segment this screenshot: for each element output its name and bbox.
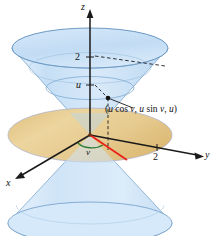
- surface-point-marker: [106, 96, 111, 101]
- x-axis-label: x: [6, 178, 10, 188]
- y-tick-label-2: 2: [153, 152, 158, 162]
- x-axis-arrowhead: [15, 172, 25, 179]
- point-label-sin: sin: [144, 104, 160, 114]
- y-axis-label: y: [205, 150, 209, 160]
- cone-diagram-canvas: [0, 0, 217, 236]
- angle-label-v: v: [86, 148, 90, 157]
- cone-diagram-figure: z y x 2 u 2 v (u cos v, u sin v, u): [0, 0, 217, 236]
- point-coordinate-label: (u cos v, u sin v, u): [105, 105, 177, 115]
- z-axis-arrowhead: [87, 9, 94, 18]
- point-label-paren-close: ): [174, 104, 177, 114]
- z-tick-label-2: 2: [75, 52, 80, 62]
- y-axis-arrowhead: [195, 153, 205, 160]
- origin-marker: [88, 133, 92, 137]
- point-label-cos: cos: [113, 104, 130, 114]
- z-axis-label: z: [81, 2, 85, 12]
- z-tick-label-u: u: [76, 80, 81, 90]
